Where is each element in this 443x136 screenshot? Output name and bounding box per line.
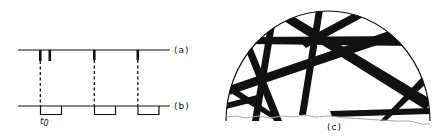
- panel-b: (b) t0: [18, 101, 190, 128]
- figure-canvas: (a) (b) t0: [0, 0, 443, 136]
- band-group: [226, 10, 432, 121]
- panel-c: (c): [226, 10, 432, 132]
- t0-label: t0: [40, 116, 49, 128]
- band-10: [330, 108, 430, 117]
- t0-sub: 0: [44, 119, 49, 128]
- impulse-1: [39, 50, 42, 61]
- impulse-2: [49, 50, 52, 61]
- panel-a: (a): [18, 45, 190, 61]
- impulse-4: [137, 50, 140, 60]
- impulse-3: [93, 50, 96, 60]
- label-b: (b): [174, 101, 190, 111]
- dashed-connectors: [40, 60, 138, 106]
- label-a: (a): [174, 45, 190, 55]
- pulse-2: [95, 106, 116, 115]
- figure: (a) (b) t0: [0, 0, 443, 136]
- label-c: (c): [327, 122, 342, 132]
- pulse-1: [41, 106, 62, 115]
- pulse-3: [138, 106, 159, 115]
